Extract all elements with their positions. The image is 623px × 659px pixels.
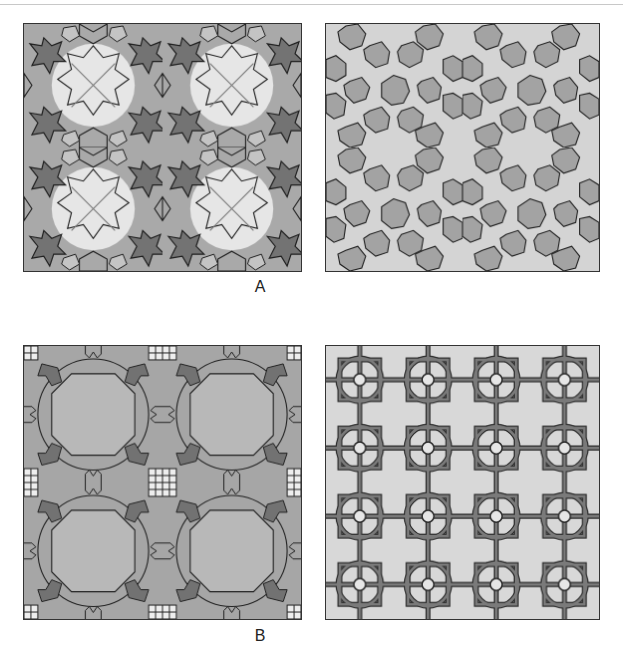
panel-b-left [23,345,302,620]
panel-b-right [325,345,600,620]
interlaced-strapwork [326,346,599,619]
panel-a-right [325,23,600,272]
heptagon-star-tiling [326,24,599,271]
octagon-rosette-tiling [24,346,301,619]
header-rule [0,4,623,5]
star-pentagon-tiling [24,24,301,271]
panel-label-a: A [250,278,270,296]
panel-label-b: B [250,627,270,645]
panel-a-left [23,23,302,272]
